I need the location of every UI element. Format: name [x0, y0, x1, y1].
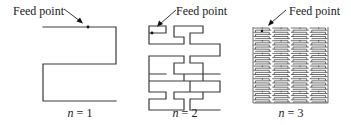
panel-n2: Feed point n = 2: [149, 4, 228, 120]
feed-point-label-n1: Feed point: [13, 4, 65, 18]
fractal-antenna-figure: Feed point n = 1 Feed point n = 2 Feed p…: [0, 0, 351, 125]
feed-point-label-n3: Feed point: [289, 4, 341, 18]
caption-n2: n = 2: [173, 106, 198, 120]
meander-wire-n3: [253, 27, 328, 103]
panel-n3: Feed point n = 3: [253, 4, 341, 120]
caption-n3: n = 3: [279, 106, 304, 120]
feed-arrow-n3: [268, 10, 286, 26]
feed-arrow-n2: [157, 10, 176, 27]
meander-wire-n2: [149, 26, 220, 110]
feed-point-dot-n1: [87, 26, 90, 29]
meander-wire-n1: [43, 27, 116, 101]
feed-point-dot-n2: [151, 32, 154, 35]
feed-point-dot-n3: [261, 30, 263, 32]
panel-n1: Feed point n = 1: [13, 4, 116, 120]
feed-arrow-n1: [64, 9, 83, 24]
caption-n1: n = 1: [68, 106, 93, 120]
feed-point-label-n2: Feed point: [176, 4, 228, 18]
